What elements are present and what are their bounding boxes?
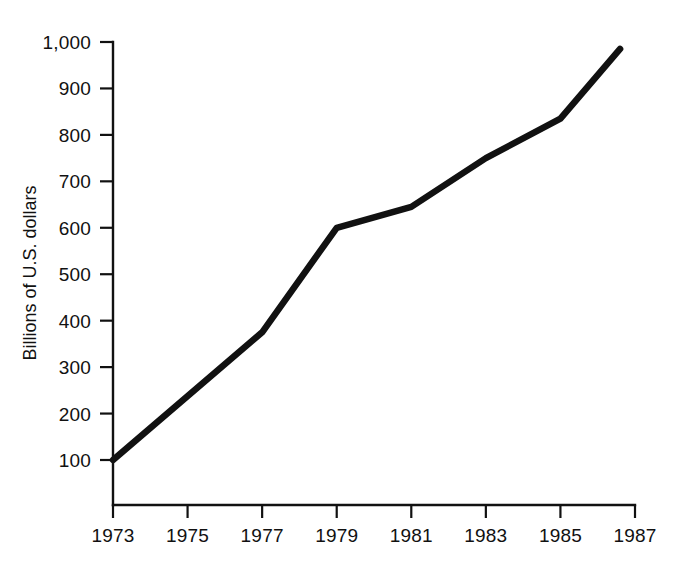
y-tick-label: 700 (59, 171, 91, 192)
y-tick-label: 200 (59, 404, 91, 425)
y-tick-label: 600 (59, 218, 91, 239)
y-tick-label: 1,000 (42, 32, 91, 53)
x-tick-label: 1973 (91, 525, 134, 546)
y-tick-label: 500 (59, 264, 91, 285)
y-tick-label: 800 (59, 125, 91, 146)
line-chart: 1002003004005006007008009001,000 1973197… (0, 0, 694, 563)
y-axis-title: Billions of U.S. dollars (20, 185, 40, 360)
x-tick-label: 1985 (539, 525, 582, 546)
x-tick-label: 1975 (166, 525, 209, 546)
y-tick-label: 900 (59, 78, 91, 99)
y-tick-label: 400 (59, 311, 91, 332)
x-tick-label: 1987 (613, 525, 656, 546)
y-tick-label: 300 (59, 357, 91, 378)
chart-canvas: 1002003004005006007008009001,000 1973197… (0, 0, 694, 563)
x-tick-label: 1979 (315, 525, 358, 546)
x-tick-label: 1977 (241, 525, 284, 546)
x-tick-label: 1981 (390, 525, 433, 546)
y-tick-label: 100 (59, 450, 91, 471)
x-tick-label: 1983 (464, 525, 507, 546)
